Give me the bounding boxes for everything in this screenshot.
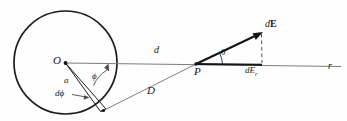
- label-field-vector-dE: dE: [265, 19, 277, 29]
- electric-field-ring-diagram: O a ϕ dϕ d D P θ dE dEr r: [0, 0, 347, 121]
- label-slant-distance-D: D: [147, 85, 155, 96]
- rim-element-dot: [102, 109, 105, 112]
- label-axial-distance-d: d: [154, 45, 159, 55]
- dE-vector-line: [196, 36, 256, 65]
- label-center-O: O: [53, 55, 61, 66]
- dphi-pointer-line: [72, 95, 86, 98]
- label-dEr-subscript: r: [255, 70, 257, 77]
- label-field-point-P: P: [194, 66, 201, 77]
- dE-projection-dashed-line: [262, 34, 263, 63]
- label-angle-theta: θ: [221, 48, 225, 57]
- label-axis-r: r: [328, 61, 332, 71]
- label-angle-phi: ϕ: [92, 72, 97, 81]
- dphi-pointer-arrowhead: [84, 95, 90, 100]
- label-radius-a: a: [64, 76, 69, 85]
- label-field-component-dEr: dEr: [245, 66, 257, 77]
- center-point-O: [64, 61, 68, 65]
- label-dEr-base: dE: [245, 65, 255, 75]
- label-element-dphi: dϕ: [55, 89, 64, 98]
- label-dE-E: E: [270, 18, 277, 29]
- wedge-edge-line: [66, 63, 107, 109]
